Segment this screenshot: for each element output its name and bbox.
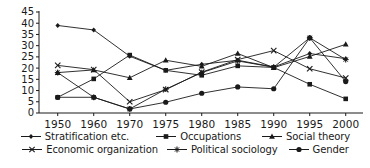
legend-marker-square-icon	[155, 131, 177, 142]
chart-legend: Stratification etc. Occupations Social t…	[0, 131, 370, 155]
y-tick-label: 0	[28, 107, 34, 118]
y-tick-label: 10	[21, 85, 34, 96]
legend-item-political-sociology: Political sociology	[166, 144, 278, 155]
y-tick-label: 25	[21, 51, 34, 62]
legend-marker-star-icon	[166, 144, 188, 155]
legend-label: Gender	[313, 144, 349, 155]
x-tick-label: 1980	[188, 118, 215, 130]
x-tick-label: 1970	[116, 118, 143, 130]
legend-item-gender: Gender	[288, 144, 349, 155]
x-tick-label: 1950	[44, 118, 71, 130]
legend-label: Stratification etc.	[45, 131, 129, 142]
legend-marker-circle-icon	[288, 144, 310, 155]
x-tick-label: 1985	[224, 118, 251, 130]
x-tick-label: 1975	[152, 118, 179, 130]
legend-marker-cross-icon	[21, 144, 43, 155]
legend-marker-diamond-icon	[20, 131, 42, 142]
legend-label: Occupations	[180, 131, 241, 142]
y-tick-label: 15	[21, 74, 34, 85]
legend-row-1: Stratification etc. Occupations Social t…	[20, 131, 350, 142]
x-tick-label: 1995	[296, 118, 323, 130]
y-tick-label: 5	[28, 96, 34, 107]
legend-label: Political sociology	[191, 144, 278, 155]
legend-item-occupations: Occupations	[155, 131, 241, 142]
x-tick-label: 1990	[260, 118, 287, 130]
x-tick-label: 1960	[80, 118, 107, 130]
chart-plot-area: 0510152025303540451950196019701975198019…	[0, 0, 370, 132]
legend-item-economic-organization: Economic organization	[21, 144, 158, 155]
legend-item-social-theory: Social theory	[261, 131, 350, 142]
legend-label: Economic organization	[46, 144, 158, 155]
y-tick-label: 35	[21, 29, 34, 40]
y-tick-label: 20	[21, 63, 34, 74]
y-tick-label: 40	[21, 18, 34, 29]
legend-marker-triangle-icon	[261, 131, 283, 142]
legend-row-2: Economic organization Political sociolog…	[21, 144, 349, 155]
legend-item-stratification-etc: Stratification etc.	[20, 131, 129, 142]
series-political-sociology	[55, 35, 349, 112]
y-tick-label: 45	[21, 6, 34, 17]
line-chart: 0510152025303540451950196019701975198019…	[0, 0, 370, 168]
x-tick-label: 2000	[332, 118, 359, 130]
legend-label: Social theory	[286, 131, 350, 142]
y-tick-label: 30	[21, 40, 34, 51]
